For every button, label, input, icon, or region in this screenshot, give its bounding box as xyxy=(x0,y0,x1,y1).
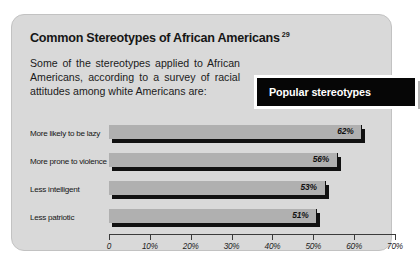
x-axis-tick-label: 50% xyxy=(305,242,321,251)
x-axis-line xyxy=(109,234,395,235)
bar-category-label: More prone to violence xyxy=(30,156,106,167)
bar-track: 62% xyxy=(109,125,380,147)
bar xyxy=(109,125,362,139)
chart-row: More prone to violence56% xyxy=(30,153,380,175)
bar-value-label: 56% xyxy=(313,154,329,164)
x-axis-tick xyxy=(191,234,192,240)
chart-row: Less intelligent53% xyxy=(30,181,380,203)
bar xyxy=(109,209,317,223)
title-text: Common Stereotypes of African Americans xyxy=(30,31,280,45)
infographic-card: Common Stereotypes of African Americans2… xyxy=(11,14,392,251)
x-axis-tick xyxy=(109,234,110,240)
x-axis-tick xyxy=(313,234,314,240)
bar-track: 53% xyxy=(109,181,380,203)
callout-box: Popular stereotypes xyxy=(254,75,420,109)
x-axis-tick xyxy=(272,234,273,240)
intro-paragraph: Some of the stereotypes applied to Afric… xyxy=(30,56,240,98)
x-axis-tick xyxy=(232,234,233,240)
callout-panel: Popular stereotypes xyxy=(254,75,418,109)
x-axis-tick-label: 0 xyxy=(107,242,111,251)
chart-row: More likely to be lazy62% xyxy=(30,125,380,147)
footnote-marker: 29 xyxy=(282,30,290,39)
x-axis-tick xyxy=(150,234,151,240)
bar xyxy=(109,181,326,195)
bar xyxy=(109,153,338,167)
bar-value-label: 53% xyxy=(301,182,317,192)
bar-track: 56% xyxy=(109,153,380,175)
x-axis-tick-label: 30% xyxy=(224,242,240,251)
page-title: Common Stereotypes of African Americans2… xyxy=(30,30,290,45)
bar-category-label: Less patriotic xyxy=(30,212,106,223)
bar-category-label: More likely to be lazy xyxy=(30,128,106,139)
callout-label: Popular stereotypes xyxy=(257,86,371,98)
x-axis-tick-label: 10% xyxy=(142,242,158,251)
x-axis-tick-label: 70% xyxy=(387,242,403,251)
bar-track: 51% xyxy=(109,209,380,231)
bar-value-label: 51% xyxy=(292,210,308,220)
x-axis-tick xyxy=(395,234,396,240)
bar-chart: More likely to be lazy62%More prone to v… xyxy=(30,125,380,243)
bar-value-label: 62% xyxy=(337,126,353,136)
x-axis-tick-label: 20% xyxy=(183,242,199,251)
chart-row: Less patriotic51% xyxy=(30,209,380,231)
x-axis-tick-label: 60% xyxy=(346,242,362,251)
x-axis-tick-label: 40% xyxy=(265,242,281,251)
x-axis-tick xyxy=(354,234,355,240)
bar-category-label: Less intelligent xyxy=(30,184,106,195)
